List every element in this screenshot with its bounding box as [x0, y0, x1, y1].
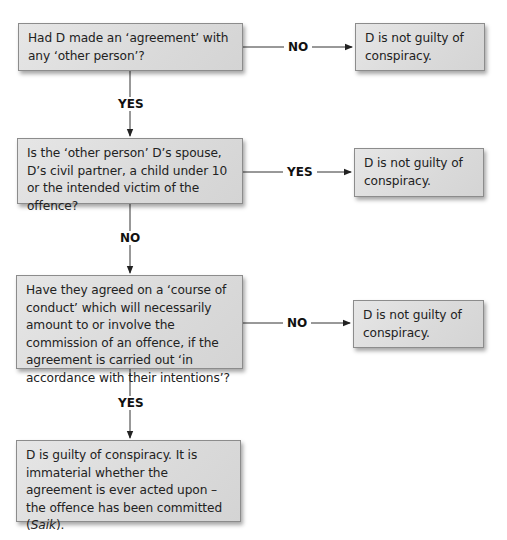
edge-label-no-3: NO: [283, 316, 311, 330]
edge-label-yes-1: YES: [114, 97, 148, 111]
result-not-guilty-box-3: D is not guilty of conspiracy.: [353, 300, 484, 348]
edge-label-yes-3: YES: [114, 396, 148, 410]
question-agreement-text: Had D made an ‘agreement’ with any ‘othe…: [28, 31, 228, 63]
edge-label-yes-2: YES: [283, 165, 317, 179]
question-exempt-party-text: Is the ‘other person’ D’s spouse, D’s ci…: [27, 146, 227, 213]
case-name-saik: Saik: [31, 518, 56, 532]
result-guilty-box: D is guilty of conspiracy. It is immater…: [16, 440, 241, 522]
question-course-of-conduct-box: Have they agreed on a ‘course of conduct…: [16, 275, 243, 369]
result-not-guilty-text-3: D is not guilty of conspiracy.: [363, 308, 462, 340]
result-not-guilty-text-2: D is not guilty of conspiracy.: [364, 156, 463, 188]
question-course-of-conduct-text: Have they agreed on a ‘course of conduct…: [26, 283, 230, 385]
result-not-guilty-box-2: D is not guilty of conspiracy.: [354, 148, 484, 197]
question-exempt-party-box: Is the ‘other person’ D’s spouse, D’s ci…: [17, 138, 243, 204]
result-not-guilty-text-1: D is not guilty of conspiracy.: [365, 31, 464, 63]
question-agreement-box: Had D made an ‘agreement’ with any ‘othe…: [18, 23, 243, 71]
result-not-guilty-box-1: D is not guilty of conspiracy.: [355, 23, 485, 71]
edge-label-no-1: NO: [284, 40, 312, 54]
result-guilty-tail: ).: [56, 518, 64, 532]
edge-label-no-2: NO: [116, 231, 144, 245]
